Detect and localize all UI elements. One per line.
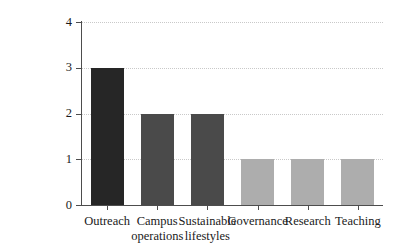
y-tick-mark <box>76 22 81 23</box>
bar[interactable] <box>191 114 224 206</box>
x-tick-mark <box>207 205 208 210</box>
bars-layer <box>0 0 400 205</box>
y-tick-mark <box>76 159 81 160</box>
y-axis-line <box>81 21 82 206</box>
x-tick-mark <box>157 205 158 210</box>
x-tick-mark <box>358 205 359 210</box>
bar[interactable] <box>91 68 124 205</box>
y-tick-mark <box>76 68 81 69</box>
y-tick-label: 3 <box>52 61 72 74</box>
y-tick-label: 0 <box>52 199 72 212</box>
bar-chart: 01234 OutreachCampus operationsSustainab… <box>0 0 400 252</box>
y-tick-label: 4 <box>52 16 72 29</box>
bar[interactable] <box>241 159 274 205</box>
x-tick-label: Teaching <box>327 214 389 229</box>
y-tick-mark <box>76 114 81 115</box>
bar[interactable] <box>141 114 174 206</box>
x-axis-line <box>81 205 383 206</box>
y-tick-mark <box>76 205 81 206</box>
x-tick-mark <box>308 205 309 210</box>
bar[interactable] <box>291 159 324 205</box>
x-tick-mark <box>107 205 108 210</box>
x-tick-mark <box>258 205 259 210</box>
y-tick-label: 1 <box>52 153 72 166</box>
y-tick-label: 2 <box>52 107 72 120</box>
bar[interactable] <box>341 159 374 205</box>
